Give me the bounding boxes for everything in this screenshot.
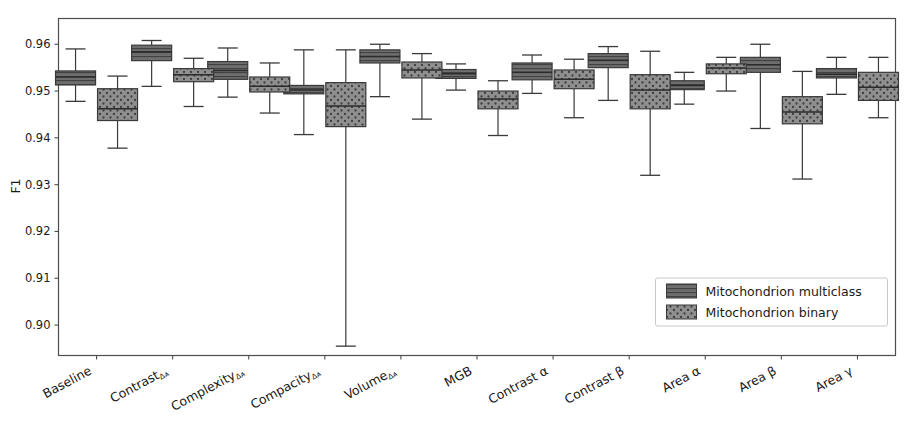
legend-swatch: [667, 305, 697, 319]
y-tick-label: 0.90: [25, 318, 51, 332]
box-iqr: [478, 91, 518, 109]
x-tick-label-group: Area α: [659, 363, 702, 395]
box-iqr: [98, 89, 138, 121]
box-iqr: [250, 77, 290, 92]
x-tick-label: Area γ: [812, 363, 855, 395]
x-tick-label: MGB: [442, 363, 475, 390]
x-axis: BaselineContrastΔᴀComplexityΔᴀCompacityΔ…: [40, 356, 857, 415]
x-tick-label-group: ContrastΔᴀ: [107, 363, 171, 407]
box-iqr: [326, 83, 366, 127]
x-tick-label: Contrast β: [562, 363, 627, 407]
x-tick-label: CompacityΔᴀ: [248, 363, 323, 413]
box-iqr: [782, 97, 822, 124]
x-tick-label: ComplexityΔᴀ: [168, 363, 247, 415]
y-tick-label: 0.91: [25, 271, 51, 285]
y-tick-label: 0.95: [25, 84, 51, 98]
x-tick-label: Baseline: [40, 363, 94, 401]
y-tick-label: 0.94: [25, 131, 51, 145]
x-tick-label-group: Area γ: [812, 363, 855, 395]
box-iqr: [132, 45, 172, 60]
legend-swatch: [667, 284, 697, 298]
boxplot-figure: 0.900.910.920.930.940.950.96 BaselineCon…: [0, 0, 911, 435]
box-iqr: [630, 75, 670, 109]
box-iqr: [858, 72, 898, 100]
x-tick-label-group: Baseline: [40, 363, 94, 401]
y-axis-title: F1: [8, 178, 23, 193]
chart-canvas: 0.900.910.920.930.940.950.96 BaselineCon…: [0, 0, 911, 435]
y-tick-label: 0.93: [25, 178, 51, 192]
y-axis: 0.900.910.920.930.940.950.96: [25, 37, 59, 332]
box-iqr: [816, 69, 856, 78]
x-tick-label-group: VolumeΔᴀ: [342, 363, 400, 404]
x-tick-label: Area β: [736, 363, 779, 395]
y-tick-label: 0.92: [25, 224, 51, 238]
y-tick-label: 0.96: [25, 37, 51, 51]
x-tick-label: VolumeΔᴀ: [342, 363, 400, 404]
x-tick-label-group: Contrast β: [562, 363, 627, 407]
legend-label: Mitochondrion binary: [706, 305, 839, 320]
x-tick-label-group: Contrast α: [486, 363, 551, 407]
legend-label: Mitochondrion multiclass: [706, 284, 862, 299]
x-tick-label: Area α: [659, 363, 702, 395]
x-tick-label: ContrastΔᴀ: [107, 363, 171, 407]
box-iqr: [512, 63, 552, 80]
x-tick-label-group: Area β: [736, 363, 779, 395]
x-tick-label-group: MGB: [442, 363, 475, 390]
chart-legend: Mitochondrion multiclassMitochondrion bi…: [656, 278, 888, 326]
x-tick-label-group: CompacityΔᴀ: [248, 363, 323, 413]
box-iqr: [56, 71, 96, 85]
x-tick-label-group: ComplexityΔᴀ: [168, 363, 247, 415]
x-tick-label: Contrast α: [486, 363, 551, 407]
